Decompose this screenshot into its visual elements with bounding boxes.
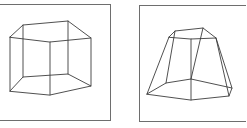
lateral-edge [216, 38, 229, 96]
lateral-edge [216, 38, 232, 88]
frustum-panel [140, 6, 247, 122]
bottom-face-edges [147, 79, 232, 100]
lateral-edge [166, 31, 175, 83]
lateral-edge [191, 28, 203, 79]
figure-canvas [0, 0, 246, 128]
bottom-face-edges [10, 74, 91, 95]
lateral-edge [147, 37, 169, 94]
top-face-edges [10, 21, 91, 42]
top-face-edges [169, 28, 216, 39]
prism-panel [0, 5, 111, 121]
panel-frame [140, 6, 247, 122]
